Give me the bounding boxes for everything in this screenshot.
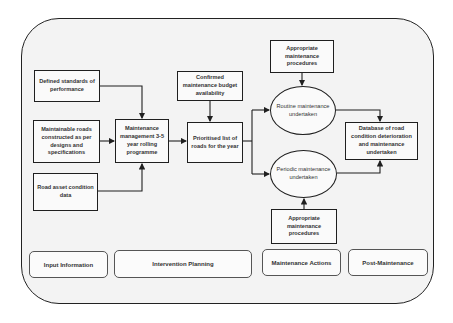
prioritised-list-box: Prioritised list of roads for the year	[187, 122, 243, 163]
input-asset-label: Road asset condition data	[37, 184, 94, 200]
input-asset-data-box: Road asset condition data	[33, 173, 98, 211]
input-maintainable-label: Maintainable roads constructed as per de…	[37, 126, 96, 157]
periodic-maintenance-ellipse: Periodic maintenance undertaken	[270, 150, 337, 198]
input-standards-box: Defined standards of performance	[34, 70, 100, 102]
stage-intervention-planning: Intervention Planning	[114, 250, 252, 278]
stage-post-maintenance: Post-Maintenance	[348, 249, 428, 276]
database-box: Database of road condition deterioration…	[345, 122, 418, 160]
routine-maintenance-ellipse: Routine maintenance undertaken	[270, 86, 336, 135]
database-label: Database of road condition deterioration…	[349, 125, 414, 156]
budget-box: Confirmed maintenance budget availabilit…	[177, 71, 243, 101]
procedures-top-label: Appropriate maintenance procedures	[274, 45, 330, 68]
stage-label: Input Information	[44, 262, 93, 268]
input-standards-label: Defined standards of performance	[38, 78, 96, 94]
stage-maintenance-actions: Maintenance Actions	[262, 249, 341, 276]
periodic-label: Periodic maintenance undertaken	[274, 166, 333, 182]
stage-input-information: Input Information	[29, 251, 108, 278]
procedures-top-box: Appropriate maintenance procedures	[270, 40, 334, 73]
management-label: Maintenance management 3-5 year rolling …	[119, 125, 165, 156]
budget-label: Confirmed maintenance budget availabilit…	[181, 74, 239, 97]
input-maintainable-roads-box: Maintainable roads constructed as per de…	[33, 120, 100, 163]
stage-label: Maintenance Actions	[272, 260, 332, 266]
routine-label: Routine maintenance undertaken	[274, 103, 332, 119]
maintenance-management-box: Maintenance management 3-5 year rolling …	[115, 119, 169, 163]
prioritised-label: Prioritised list of roads for the year	[191, 135, 239, 151]
procedures-bottom-label: Appropriate maintenance procedures	[275, 215, 333, 238]
stage-label: Post-Maintenance	[362, 260, 413, 266]
stage-label: Intervention Planning	[152, 261, 213, 267]
procedures-bottom-box: Appropriate maintenance procedures	[271, 209, 337, 244]
